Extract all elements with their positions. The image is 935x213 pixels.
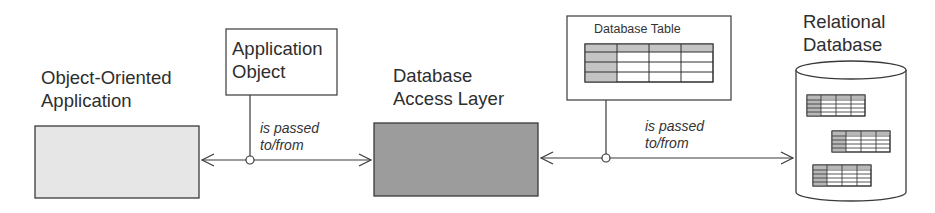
mini-table-2 (832, 131, 890, 152)
access-layer-box (374, 123, 538, 196)
oo-application-label-1: Object-Oriented (41, 67, 172, 89)
mini-table-1 (807, 95, 865, 116)
oo-application-box (35, 126, 199, 198)
edge2-annotation-2: to/from (645, 135, 689, 152)
relational-database-label-1: Relational (803, 11, 885, 33)
mini-table-3 (813, 165, 871, 186)
application-object-label-2: Object (232, 61, 285, 83)
access-layer-label-1: Database (393, 65, 472, 87)
edge1-annotation-2: to/from (260, 137, 304, 154)
edge1-annotation-1: is passed (260, 120, 319, 137)
relational-database-label-2: Database (803, 34, 882, 56)
oo-application-label-2: Application (41, 90, 132, 112)
edge2-annotation-1: is passed (645, 118, 704, 135)
application-object-label-1: Application (232, 38, 323, 60)
junction-circle (602, 154, 610, 162)
database-table-label: Database Table (594, 22, 681, 36)
junction-circle (246, 156, 254, 164)
access-layer-label-2: Access Layer (393, 88, 504, 110)
